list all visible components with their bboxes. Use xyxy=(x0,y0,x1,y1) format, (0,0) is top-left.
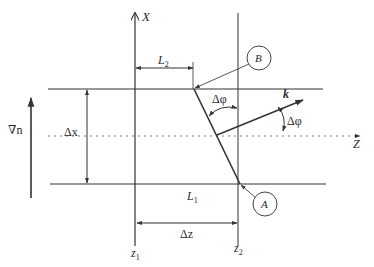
z-axis: Z xyxy=(48,136,360,151)
z-axis-label: Z xyxy=(353,137,360,151)
z2-plane-label: z2 xyxy=(233,241,243,257)
L1-dimension: L1 xyxy=(136,184,238,205)
delta-phi-upper-angle: Δφ xyxy=(209,92,237,116)
point-A-label: A xyxy=(260,198,268,210)
delta-phi-right-angle: Δφ xyxy=(278,107,302,131)
point-A-callout: A xyxy=(241,185,277,216)
delta-x-label: Δx xyxy=(64,125,78,139)
point-B-label: B xyxy=(255,52,262,64)
delta-z-label: Δz xyxy=(180,227,193,241)
delta-x-dimension: Δx xyxy=(64,90,87,183)
gradient-n-label: ∇n xyxy=(8,123,22,137)
delta-z-dimension: Δz xyxy=(137,223,237,241)
x-axis-label: X xyxy=(141,9,151,24)
x-axis: X xyxy=(135,9,151,246)
delta-phi-upper-label: Δφ xyxy=(212,92,227,106)
L1-label: L1 xyxy=(186,189,198,205)
point-B-callout: B xyxy=(195,46,271,88)
k-label: k xyxy=(283,87,289,101)
z1-plane-label: z1 xyxy=(130,246,140,262)
L2-dimension: L2 xyxy=(136,53,193,89)
beam-deflection-diagram: X Z ∇n Δx L2 L1 Δz z1 z2 xyxy=(0,0,374,267)
delta-phi-right-label: Δφ xyxy=(287,114,302,128)
L2-label: L2 xyxy=(157,53,169,69)
gradient-n: ∇n xyxy=(8,98,31,198)
